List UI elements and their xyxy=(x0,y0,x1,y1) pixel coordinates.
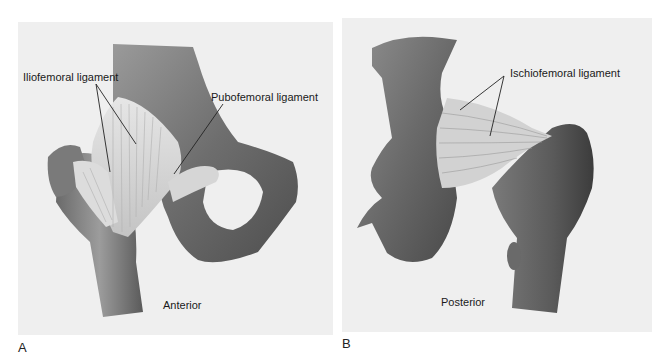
anterior-view-panel: Iliofemoral ligament Pubofemoral ligamen… xyxy=(18,22,333,335)
anterior-view-label: Anterior xyxy=(163,299,202,311)
posterior-view-panel: Ischiofemoral ligament Posterior xyxy=(342,18,652,332)
iliofemoral-ligament-label: Iliofemoral ligament xyxy=(23,71,118,83)
posterior-hip-illustration xyxy=(342,18,652,332)
posterior-view-label: Posterior xyxy=(441,296,485,308)
panel-letter-b: B xyxy=(342,336,351,351)
panel-letter-a: A xyxy=(18,340,27,355)
ischiofemoral-ligament-label: Ischiofemoral ligament xyxy=(510,67,620,79)
anterior-hip-illustration xyxy=(18,22,333,335)
pubofemoral-ligament-label: Pubofemoral ligament xyxy=(211,91,318,103)
